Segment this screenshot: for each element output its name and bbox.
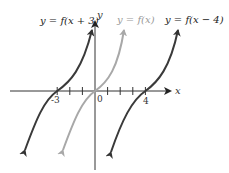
series-label-f-x: y = f(x)	[116, 14, 155, 25]
origin-label: 0	[97, 94, 103, 104]
curve-f-x	[63, 30, 124, 150]
function-shift-graph: x y 0 -3 4 y = f(x + 3) y = f(x) y = f(x…	[0, 0, 229, 173]
series-label-f-x-plus-3: y = f(x + 3)	[39, 15, 99, 26]
tick-label-neg3: -3	[51, 95, 60, 105]
x-axis-label: x	[175, 85, 181, 96]
tick-label-4: 4	[143, 96, 149, 106]
series-label-f-x-minus-4: y = f(x − 4)	[164, 14, 224, 25]
